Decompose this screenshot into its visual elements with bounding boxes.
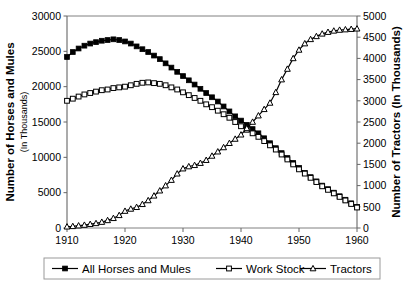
data-point-marker	[123, 84, 128, 89]
data-point-marker	[88, 91, 93, 96]
data-point-marker	[227, 115, 232, 120]
data-point-marker	[291, 162, 296, 167]
right-axis-tick-label: 4500	[363, 31, 387, 43]
chart-canvas: 050001000015000200002500030000 050010001…	[0, 0, 414, 285]
left-axis: 050001000015000200002500030000	[32, 10, 67, 234]
data-point-marker	[94, 40, 99, 45]
data-point-marker	[169, 65, 174, 70]
chart-legend: All Horses and MulesWork StockTractors	[44, 258, 380, 279]
left-axis-tick-label: 15000	[32, 116, 61, 128]
right-axis: 0500100015002000250030003500400045005000	[357, 10, 387, 234]
data-point-marker	[204, 102, 209, 107]
data-point-marker	[105, 38, 110, 43]
right-axis-tick-label: 0	[363, 222, 369, 234]
left-axis-title: Number of Horses and Mules	[4, 42, 16, 201]
data-point-marker	[70, 96, 75, 101]
data-point-marker	[134, 81, 139, 86]
data-point-marker	[82, 43, 87, 48]
data-point-marker	[273, 89, 279, 94]
data-point-marker	[262, 139, 267, 144]
data-point-marker	[163, 61, 168, 66]
data-point-marker	[320, 184, 325, 189]
data-point-marker	[105, 87, 110, 92]
data-point-marker	[181, 74, 186, 79]
left-axis-subtitle: (In Thousands)	[19, 92, 29, 152]
data-point-marker	[175, 87, 180, 92]
data-point-marker	[134, 44, 139, 49]
data-point-marker	[250, 131, 255, 136]
right-axis-tick-label: 2500	[363, 116, 387, 128]
data-point-marker	[302, 40, 308, 45]
data-point-marker	[233, 120, 238, 125]
data-point-marker	[140, 201, 146, 206]
data-point-marker	[152, 53, 157, 58]
data-point-marker	[175, 69, 180, 74]
data-point-marker	[239, 118, 244, 123]
right-axis-tick-label: 4000	[363, 52, 387, 64]
right-axis-tick-label: 1000	[363, 179, 387, 191]
legend-label: Tractors	[330, 263, 372, 275]
data-point-marker	[215, 149, 221, 154]
data-point-marker	[279, 152, 284, 157]
data-point-marker	[285, 66, 291, 71]
left-axis-tick-label: 25000	[32, 45, 61, 57]
right-axis-tick-label: 5000	[363, 10, 387, 22]
data-point-marker	[117, 38, 122, 43]
data-point-marker	[94, 89, 99, 94]
data-point-marker	[355, 205, 360, 210]
data-point-marker	[221, 144, 227, 149]
data-point-marker	[157, 81, 162, 86]
plot-frame	[67, 16, 357, 228]
right-axis-tick-label: 2000	[363, 137, 387, 149]
data-point-marker	[70, 50, 75, 55]
legend-label: All Horses and Mules	[82, 263, 191, 275]
data-point-marker	[203, 157, 209, 162]
data-point-marker	[181, 90, 186, 95]
series-tractors	[64, 26, 360, 229]
data-point-marker	[140, 80, 145, 85]
x-axis-tick-label: 1940	[229, 234, 253, 246]
data-point-marker	[227, 109, 232, 114]
data-point-marker	[209, 153, 215, 158]
data-point-marker	[227, 266, 232, 271]
data-point-marker	[163, 83, 168, 88]
data-point-marker	[221, 104, 226, 109]
data-point-marker	[186, 78, 191, 83]
data-point-marker	[337, 195, 342, 200]
data-point-marker	[331, 191, 336, 196]
data-point-marker	[343, 198, 348, 203]
data-point-marker	[204, 91, 209, 96]
data-point-marker	[210, 105, 215, 110]
data-point-marker	[157, 57, 162, 62]
right-axis-tick-label: 3500	[363, 73, 387, 85]
data-point-marker	[256, 134, 261, 139]
left-axis-tick-label: 5000	[38, 186, 62, 198]
data-point-marker	[99, 88, 104, 93]
data-point-marker	[268, 143, 273, 148]
data-point-marker	[111, 37, 116, 42]
data-point-marker	[123, 39, 128, 44]
data-point-marker	[314, 180, 319, 185]
data-point-marker	[302, 171, 307, 176]
data-point-marker	[192, 82, 197, 87]
data-point-marker	[76, 94, 81, 99]
data-point-marker	[326, 187, 331, 192]
data-point-marker	[239, 124, 244, 129]
series-line	[67, 29, 357, 227]
data-point-marker	[198, 86, 203, 91]
data-point-marker	[285, 157, 290, 162]
data-point-marker	[128, 41, 133, 46]
x-axis-tick-label: 1920	[113, 234, 137, 246]
data-point-marker	[349, 202, 354, 207]
x-axis-tick-label: 1910	[55, 234, 79, 246]
data-point-marker	[99, 38, 104, 43]
data-point-marker	[192, 96, 197, 101]
data-point-marker	[117, 85, 122, 90]
right-axis-tick-label: 1500	[363, 158, 387, 170]
data-point-marker	[169, 85, 174, 90]
left-axis-tick-label: 30000	[32, 10, 61, 22]
left-axis-tick-label: 10000	[32, 151, 61, 163]
data-point-marker	[267, 100, 273, 105]
x-axis-tick-label: 1960	[345, 234, 369, 246]
data-point-marker	[146, 80, 151, 85]
